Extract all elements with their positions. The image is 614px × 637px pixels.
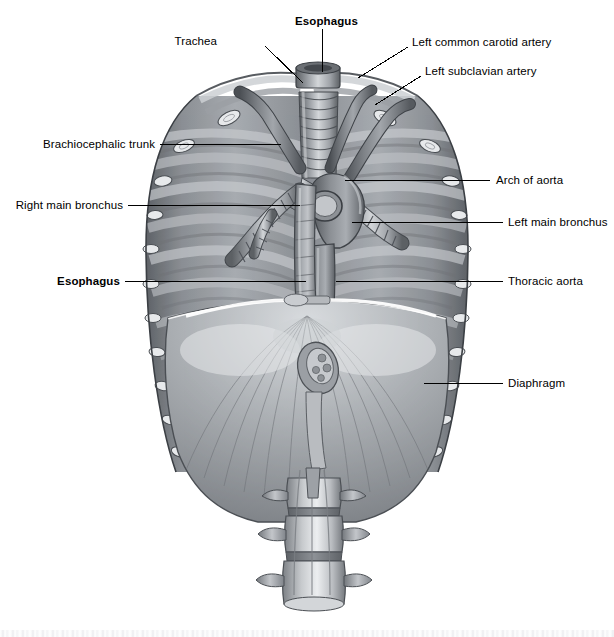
label-esophagus-left: Esophagus (0, 276, 120, 288)
label-left-subclavian-artery: Left subclavian artery (425, 66, 537, 78)
label-left-common-carotid-artery: Left common carotid artery (412, 37, 551, 49)
label-arch-of-aorta: Arch of aorta (496, 175, 563, 187)
label-trachea: Trachea (0, 36, 217, 48)
label-right-main-bronchus: Right main bronchus (0, 200, 123, 212)
anatomy-illustration (0, 0, 614, 637)
scan-artifact-band (0, 630, 614, 637)
anatomy-figure: Esophagus Trachea Left common carotid ar… (0, 0, 614, 637)
label-thoracic-aorta: Thoracic aorta (508, 276, 583, 288)
label-diaphragm: Diaphragm (508, 378, 565, 390)
label-brachiocephalic-trunk: Brachiocephalic trunk (0, 139, 155, 151)
label-left-main-bronchus: Left main bronchus (508, 217, 608, 229)
label-esophagus-top: Esophagus (295, 16, 358, 28)
